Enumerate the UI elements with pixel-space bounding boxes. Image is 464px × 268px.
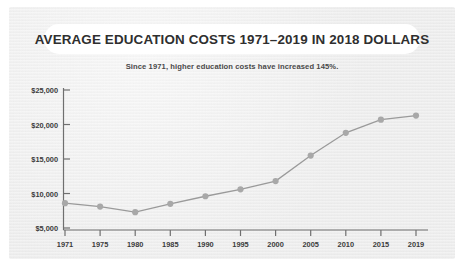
x-axis-ticks	[65, 230, 416, 236]
x-axis-tick-label: 2019	[396, 240, 436, 249]
data-point	[308, 152, 314, 158]
x-axis-tick-label: 2005	[291, 240, 331, 249]
data-point-markers	[62, 112, 419, 215]
x-axis-tick-label: 1985	[150, 240, 190, 249]
y-axis-tick-label: $20,000	[14, 121, 58, 130]
y-axis-tick-label: $10,000	[14, 190, 58, 199]
data-line	[65, 116, 416, 213]
x-axis-tick-label: 1980	[115, 240, 155, 249]
data-point	[237, 186, 243, 192]
x-axis-tick-label: 2015	[361, 240, 401, 249]
x-axis-tick-label: 2000	[256, 240, 296, 249]
data-point	[132, 209, 138, 215]
x-axis-tick-label: 1995	[221, 240, 261, 249]
line-chart: $5,000$10,000$15,000$20,000$25,000 19711…	[0, 0, 464, 268]
y-axis-tick-label: $5,000	[14, 224, 58, 233]
data-point	[167, 201, 173, 207]
y-axis-tick-label: $25,000	[14, 86, 58, 95]
x-axis-tick-label: 2010	[326, 240, 366, 249]
y-axis-ticks	[64, 90, 71, 228]
x-axis-tick-label: 1975	[80, 240, 120, 249]
data-point	[343, 130, 349, 136]
data-point	[378, 117, 384, 123]
y-axis-tick-label: $15,000	[14, 155, 58, 164]
data-point	[62, 200, 68, 206]
x-axis-tick-label: 1990	[185, 240, 225, 249]
screenshot-root: AVERAGE EDUCATION COSTS 1971–2019 IN 201…	[0, 0, 464, 268]
data-point	[273, 178, 279, 184]
x-axis-tick-label: 1971	[45, 240, 85, 249]
data-point	[413, 112, 419, 118]
data-point	[97, 204, 103, 210]
chart-svg	[0, 0, 464, 268]
data-point	[202, 193, 208, 199]
